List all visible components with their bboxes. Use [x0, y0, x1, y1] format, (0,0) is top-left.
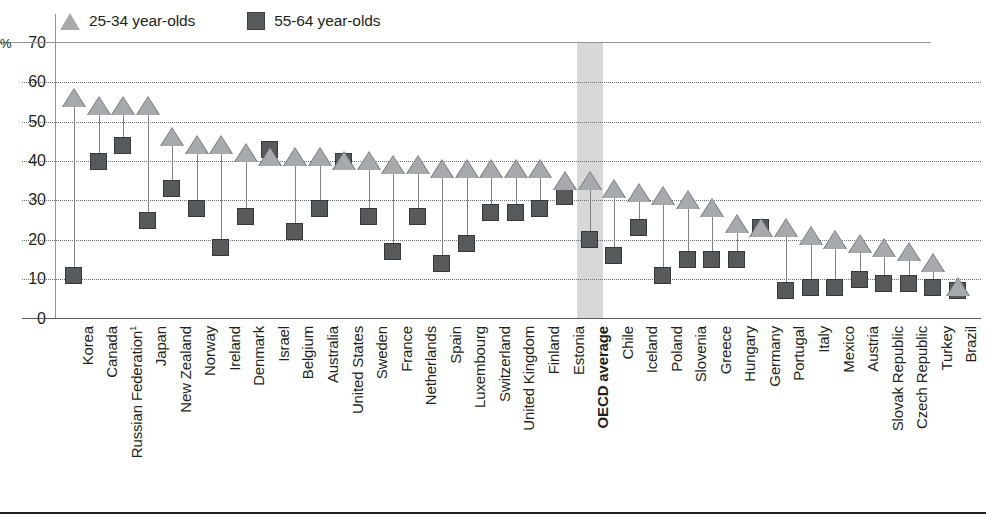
marker-55-64: [409, 208, 426, 225]
x-axis-label: Ireland: [227, 326, 242, 371]
connector-line: [74, 98, 75, 275]
y-axis-tick-40: 40: [0, 152, 46, 170]
marker-25-34: [554, 172, 576, 190]
connector-line: [393, 165, 394, 252]
y-axis-tick-20: 20: [0, 231, 46, 249]
marker-55-64: [286, 223, 303, 240]
x-axis-label: Turkey: [939, 326, 954, 370]
connector-line: [663, 196, 664, 275]
marker-25-34: [112, 97, 134, 115]
marker-25-34: [210, 136, 232, 154]
marker-25-34: [628, 184, 650, 202]
marker-55-64: [900, 275, 917, 292]
x-axis-label: United Kingdom: [521, 326, 536, 431]
marker-55-64: [507, 204, 524, 221]
x-axis-label: New Zealand: [178, 326, 193, 413]
marker-25-34: [137, 97, 159, 115]
marker-25-34: [800, 227, 822, 245]
gridline-30: [22, 200, 981, 201]
marker-55-64: [728, 251, 745, 268]
y-axis-tick-60: 60: [0, 73, 46, 91]
connector-line: [442, 169, 443, 263]
marker-55-64: [605, 247, 622, 264]
x-axis-label: Chile: [620, 326, 635, 359]
x-axis-label: Norway: [202, 326, 217, 376]
x-axis-label: Denmark: [251, 326, 266, 386]
marker-25-34: [652, 187, 674, 205]
x-axis-label: Korea: [80, 326, 95, 365]
marker-25-34: [922, 254, 944, 272]
connector-line: [295, 157, 296, 232]
x-axis-label: Portugal: [791, 326, 806, 381]
marker-25-34: [88, 97, 110, 115]
x-axis-label: Australia: [325, 326, 340, 383]
x-axis-label: Czech Republic: [914, 326, 929, 429]
y-axis-line: [55, 14, 56, 319]
x-axis-line: [22, 318, 981, 319]
marker-55-64: [65, 267, 82, 284]
x-axis-label: Canada: [104, 326, 119, 378]
legend-item-25-34: 25-34 year-olds: [60, 12, 195, 30]
connector-line: [221, 145, 222, 247]
chart-legend: 25-34 year-olds 55-64 year-olds: [60, 6, 380, 36]
bottom-rule: [0, 512, 986, 514]
marker-55-64: [311, 200, 328, 217]
x-axis-label: France: [399, 326, 414, 372]
x-axis-label: Poland: [669, 326, 684, 372]
marker-25-34: [358, 152, 380, 170]
marker-55-64: [139, 212, 156, 229]
marker-25-34: [284, 148, 306, 166]
x-axis-label: Switzerland: [497, 326, 512, 402]
x-axis-label: Netherlands: [423, 326, 438, 405]
marker-55-64: [630, 219, 647, 236]
legend-item-55-64: 55-64 year-olds: [247, 12, 380, 30]
x-axis-label: Brazil: [963, 326, 978, 363]
marker-55-64: [433, 255, 450, 272]
marker-25-34: [677, 191, 699, 209]
marker-55-64: [90, 153, 107, 170]
x-axis-label: Austria: [865, 326, 880, 372]
marker-55-64: [679, 251, 696, 268]
marker-25-34: [407, 156, 429, 174]
x-axis-label: OECD average: [595, 326, 610, 428]
marker-55-64: [777, 282, 794, 299]
x-axis-label: Belgium: [300, 326, 315, 379]
marker-55-64: [654, 267, 671, 284]
marker-25-34: [235, 144, 257, 162]
marker-25-34: [750, 219, 772, 237]
y-axis-tick-50: 50: [0, 113, 46, 131]
x-axis-label: Slovak Republic: [890, 326, 905, 431]
marker-25-34: [161, 128, 183, 146]
y-axis-unit-label: %: [0, 36, 20, 51]
marker-55-64: [581, 231, 598, 248]
triangle-icon: [60, 13, 80, 30]
legend-label-25-34: 25-34 year-olds: [89, 12, 195, 30]
legend-label-55-64: 55-64 year-olds: [274, 12, 380, 30]
marker-25-34: [529, 160, 551, 178]
marker-55-64: [384, 243, 401, 260]
marker-25-34: [505, 160, 527, 178]
marker-25-34: [824, 231, 846, 249]
x-axis-label: Mexico: [841, 326, 856, 373]
marker-25-34: [259, 148, 281, 166]
chart-container: 25-34 year-olds 55-64 year-olds 70605040…: [0, 0, 986, 518]
marker-55-64: [114, 137, 131, 154]
marker-55-64: [212, 239, 229, 256]
x-axis-label: Italy: [816, 326, 831, 353]
x-axis-label: Israel: [276, 326, 291, 362]
y-axis-tick-30: 30: [0, 191, 46, 209]
marker-25-34: [898, 243, 920, 261]
marker-55-64: [237, 208, 254, 225]
gridline-50: [22, 122, 981, 123]
square-icon: [247, 12, 265, 30]
marker-55-64: [556, 188, 573, 205]
x-axis-label: Luxembourg: [472, 326, 487, 408]
connector-line: [148, 106, 149, 220]
x-axis-label: United States: [350, 326, 365, 414]
marker-25-34: [726, 215, 748, 233]
x-axis-label: Slovenia: [693, 326, 708, 382]
x-axis-label: Hungary: [742, 326, 757, 382]
marker-55-64: [875, 275, 892, 292]
x-axis-label: Germany: [767, 326, 782, 387]
marker-25-34: [873, 239, 895, 257]
